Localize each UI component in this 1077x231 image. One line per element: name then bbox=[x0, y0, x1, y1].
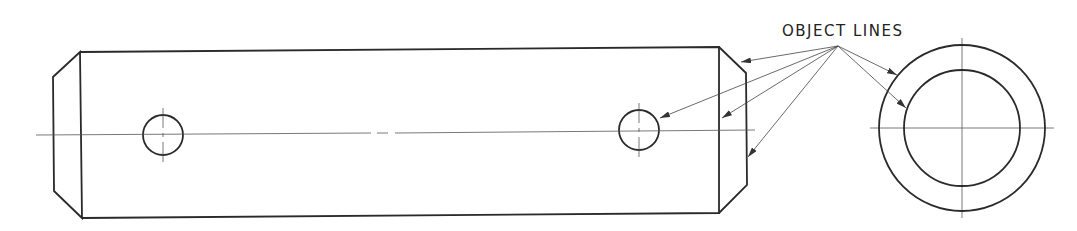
leader-arrows bbox=[660, 46, 906, 157]
side-view bbox=[53, 47, 747, 218]
body-outline bbox=[80, 47, 719, 218]
center-lines bbox=[36, 38, 1054, 218]
technical-drawing bbox=[0, 0, 1077, 231]
